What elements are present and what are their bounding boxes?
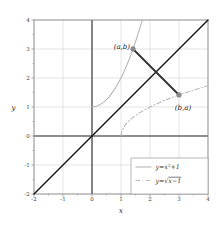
x-tick-label: 1 <box>119 196 123 202</box>
point-label: (b,a) <box>175 104 192 112</box>
x-tick-label: 0 <box>90 196 94 202</box>
legend-label-sqrt-curve: y=√x−1 <box>155 177 182 185</box>
x-tick-label: 3 <box>177 196 181 202</box>
inverse-function-plot: (a,b)(b,a)-2-101234-2-101234xyy=x²+1y=√x… <box>0 0 221 227</box>
point-label: (a,b) <box>114 43 131 51</box>
x-tick-label: -1 <box>60 196 65 202</box>
x-tick-label: 2 <box>148 196 152 202</box>
y-tick-label: 4 <box>26 17 30 23</box>
legend-label-parabola: y=x²+1 <box>155 163 180 171</box>
x-tick-label: -2 <box>31 196 36 202</box>
y-tick-label: -1 <box>24 162 29 168</box>
y-tick-label: 2 <box>26 75 30 81</box>
axis-label-x: x <box>119 207 123 215</box>
x-tick-label: 4 <box>206 196 210 202</box>
y-tick-label: 0 <box>26 133 30 139</box>
marked-point <box>131 47 136 52</box>
y-tick-label: 1 <box>26 104 30 110</box>
legend: y=x²+1y=√x−1 <box>131 158 208 194</box>
y-tick-label: 3 <box>26 46 30 52</box>
y-tick-label: -2 <box>24 191 29 197</box>
figure-canvas: (a,b)(b,a)-2-101234-2-101234xyy=x²+1y=√x… <box>0 0 221 227</box>
marked-point <box>177 93 182 98</box>
